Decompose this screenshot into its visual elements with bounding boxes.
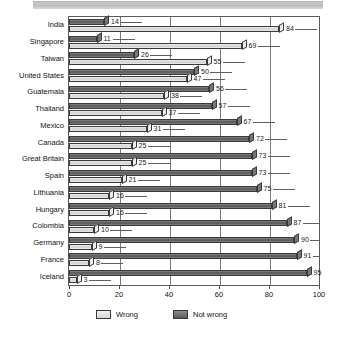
category-label: United States bbox=[0, 72, 64, 80]
value-leader-line bbox=[101, 263, 123, 264]
value-leader-line bbox=[125, 213, 147, 214]
x-tick-label: 100 bbox=[313, 291, 326, 299]
value-leader-line bbox=[288, 206, 310, 207]
value-label: 75 bbox=[264, 185, 272, 192]
value-label: 84 bbox=[286, 25, 294, 32]
value-label: 38 bbox=[171, 92, 179, 99]
category-label: Canada bbox=[0, 139, 64, 147]
x-tick-label: 20 bbox=[115, 291, 123, 299]
value-label: 73 bbox=[259, 169, 267, 176]
bar-end-cap bbox=[132, 156, 137, 167]
bar-end-cap bbox=[94, 223, 99, 234]
bar-notwrong bbox=[69, 170, 252, 176]
bar-notwrong bbox=[69, 103, 212, 109]
bar-end-cap bbox=[212, 99, 217, 110]
bar-wrong bbox=[69, 59, 207, 65]
value-leader-line bbox=[268, 173, 290, 174]
value-leader-line bbox=[178, 113, 200, 114]
chart-legend: WrongNot wrong bbox=[68, 310, 320, 326]
value-label: 72 bbox=[256, 135, 264, 142]
bar-end-cap bbox=[164, 89, 169, 100]
bar-notwrong bbox=[69, 69, 194, 75]
bar-end-cap bbox=[307, 266, 312, 277]
bar-end-cap bbox=[257, 183, 262, 194]
bar-end-cap bbox=[77, 273, 82, 284]
bar-notwrong bbox=[69, 153, 252, 159]
value-label: 56 bbox=[216, 85, 224, 92]
category-label: Hungary bbox=[0, 206, 64, 214]
bar-end-cap bbox=[249, 132, 254, 143]
bar-wrong bbox=[69, 143, 132, 149]
bar-notwrong bbox=[69, 136, 249, 142]
bar-end-cap bbox=[147, 123, 152, 134]
bar-wrong bbox=[69, 93, 164, 99]
value-label: 69 bbox=[249, 42, 257, 49]
value-leader-line bbox=[138, 180, 160, 181]
value-leader-line bbox=[104, 247, 126, 248]
bar-notwrong bbox=[69, 237, 294, 243]
value-label: 16 bbox=[116, 209, 124, 216]
bar-end-cap bbox=[252, 149, 257, 160]
category-label: France bbox=[0, 256, 64, 264]
bar-end-cap bbox=[187, 72, 192, 83]
category-label: Great Britain bbox=[0, 155, 64, 163]
value-label: 57 bbox=[219, 102, 227, 109]
value-label: 81 bbox=[279, 202, 287, 209]
value-label: 25 bbox=[139, 159, 147, 166]
bar-wrong bbox=[69, 43, 242, 49]
bar-end-cap bbox=[122, 173, 127, 184]
value-leader-line bbox=[228, 106, 250, 107]
value-leader-line bbox=[258, 46, 280, 47]
category-label: Mexico bbox=[0, 122, 64, 130]
legend-label: Wrong bbox=[116, 311, 138, 319]
category-label: Germany bbox=[0, 239, 64, 247]
value-leader-line bbox=[120, 22, 142, 23]
x-tick-label: 0 bbox=[67, 291, 71, 299]
bar-end-cap bbox=[272, 199, 277, 210]
bar-end-cap bbox=[109, 190, 114, 201]
bar-end-cap bbox=[287, 216, 292, 227]
value-leader-line bbox=[163, 129, 185, 130]
bar-end-cap bbox=[92, 240, 97, 251]
top-decorative-band bbox=[33, 1, 323, 9]
bar-end-cap bbox=[209, 82, 214, 93]
bars-layer: 1484116926555047563857376731722573257321… bbox=[69, 17, 319, 285]
value-label: 16 bbox=[116, 192, 124, 199]
value-label: 73 bbox=[259, 152, 267, 159]
bar-end-cap bbox=[132, 139, 137, 150]
value-leader-line bbox=[295, 29, 317, 30]
value-leader-line bbox=[225, 89, 247, 90]
category-label: Lithuania bbox=[0, 189, 64, 197]
legend-item-notwrong[interactable]: Not wrong bbox=[173, 310, 227, 319]
bar-end-cap bbox=[252, 166, 257, 177]
value-label: 11 bbox=[104, 35, 111, 42]
legend-item-wrong[interactable]: Wrong bbox=[96, 310, 138, 319]
bar-end-cap bbox=[207, 56, 212, 67]
value-label: 25 bbox=[139, 142, 147, 149]
x-tick bbox=[69, 286, 70, 289]
bar-end-cap bbox=[297, 250, 302, 261]
category-label: India bbox=[0, 21, 64, 29]
bar-end-cap bbox=[294, 233, 299, 244]
x-tick-label: 80 bbox=[265, 291, 273, 299]
value-label: 8 bbox=[96, 259, 100, 266]
category-label: Colombia bbox=[0, 222, 64, 230]
category-label: Iceland bbox=[0, 273, 64, 281]
bar-wrong bbox=[69, 260, 89, 266]
value-leader-line bbox=[150, 55, 172, 56]
value-leader-line bbox=[253, 122, 275, 123]
bar-wrong bbox=[69, 26, 279, 32]
x-tick-label: 40 bbox=[165, 291, 173, 299]
value-leader-line bbox=[203, 79, 225, 80]
value-leader-line bbox=[313, 256, 319, 257]
legend-swatch-wrong bbox=[96, 310, 111, 319]
value-label: 50 bbox=[201, 68, 209, 75]
value-leader-line bbox=[223, 62, 245, 63]
value-label: 14 bbox=[111, 18, 119, 25]
bar-notwrong bbox=[69, 203, 272, 209]
value-leader-line bbox=[113, 39, 135, 40]
bar-notwrong bbox=[69, 19, 104, 25]
x-axis: 020406080100 bbox=[68, 286, 320, 304]
bar-end-cap bbox=[279, 22, 284, 33]
bar-end-cap bbox=[89, 257, 94, 268]
